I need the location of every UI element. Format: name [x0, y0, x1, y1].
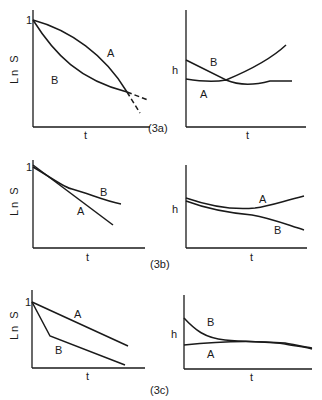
label-b: B — [51, 74, 58, 86]
label-b: B — [55, 344, 62, 356]
x-axis-label: t — [86, 251, 89, 263]
label-b: B — [210, 56, 217, 68]
y-axis-label: Ln S — [8, 53, 20, 84]
label-b: B — [100, 186, 107, 198]
ytick-1: 1 — [26, 14, 32, 26]
label-a: A — [107, 47, 115, 59]
x-axis-label: t — [246, 129, 249, 141]
chart-3b-right: h t A B — [172, 165, 307, 263]
chart-3c-right: h t B A — [171, 295, 312, 383]
chart-3b-left: 1 Ln S t B A — [8, 160, 145, 263]
curve-a — [184, 342, 312, 348]
label-b: B — [207, 316, 214, 328]
y-axis-label: h — [171, 328, 177, 340]
curve-b — [186, 201, 304, 230]
caption-3c: (3c) — [150, 384, 169, 396]
chart-3c-left: 1 Ln S t A B — [8, 290, 145, 382]
chart-3a-left: 1 Ln S t A B — [8, 10, 150, 141]
label-a: A — [259, 193, 267, 205]
y-axis-label: h — [172, 64, 178, 76]
caption-3a: (3a) — [148, 122, 168, 134]
curve-a — [186, 79, 292, 84]
caption-3b: (3b) — [150, 258, 170, 270]
y-axis-label: h — [172, 203, 178, 215]
figure-canvas: 1 Ln S t A B h t B A (3a) 1 Ln S t B A h — [0, 0, 322, 400]
label-b: B — [274, 224, 281, 236]
x-axis-label: t — [86, 370, 89, 382]
curve-b — [186, 45, 286, 80]
x-axis-label: t — [84, 129, 87, 141]
label-a: A — [207, 348, 215, 360]
x-axis-label: t — [250, 371, 253, 383]
y-axis-label: Ln S — [8, 185, 20, 216]
chart-3a-right: h t B A — [172, 10, 306, 141]
x-axis-label: t — [250, 251, 253, 263]
label-a: A — [74, 308, 82, 320]
y-axis-label: Ln S — [8, 309, 20, 340]
ytick-1: 1 — [25, 296, 31, 308]
curve-a-extrapolation — [127, 92, 140, 113]
ytick-1: 1 — [26, 161, 32, 173]
label-a: A — [200, 88, 208, 100]
label-a: A — [77, 205, 85, 217]
curve-b-extrapolation — [127, 92, 148, 100]
